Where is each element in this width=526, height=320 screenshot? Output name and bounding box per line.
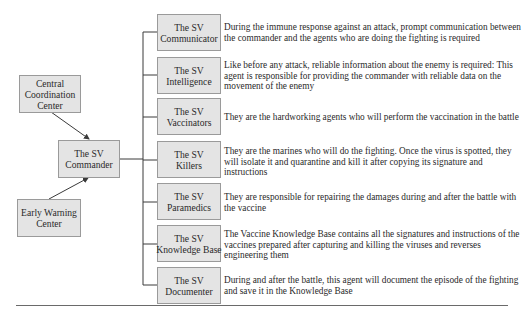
agent-paramedics-description: They are responsible for repairing the d… bbox=[224, 192, 524, 213]
node-label: Commander bbox=[65, 159, 112, 170]
node-label: The SV bbox=[174, 149, 204, 160]
agent-communicator-node: The SV Communicator bbox=[157, 14, 221, 51]
early-warning-center-node: Early Warning Center bbox=[17, 199, 81, 237]
node-label: Central bbox=[36, 78, 64, 89]
agent-communicator-description: During the immune response against an at… bbox=[224, 22, 524, 43]
node-label: Center bbox=[36, 218, 62, 229]
node-label: The SV bbox=[174, 22, 204, 33]
node-label: The SV bbox=[174, 233, 204, 244]
agent-knowledge-base-node: The SV Knowledge Base bbox=[157, 225, 221, 262]
agent-killers-node: The SV Killers bbox=[157, 141, 221, 178]
node-label: The SV bbox=[174, 275, 204, 286]
agent-paramedics-node: The SV Paramedics bbox=[157, 183, 221, 220]
commander-node: The SV Commander bbox=[58, 140, 120, 178]
agent-vaccinators-description: They are the hardworking agents who will… bbox=[224, 112, 524, 123]
node-label: The SV bbox=[174, 65, 204, 76]
agent-killers-description: They are the marines who will do the fig… bbox=[224, 146, 524, 178]
node-label: Center bbox=[37, 100, 63, 111]
node-label: Communicator bbox=[160, 33, 218, 44]
bottom-divider bbox=[16, 305, 508, 306]
agent-knowledge-base-description: The Vaccine Knowledge Base contains all … bbox=[224, 229, 524, 261]
node-label: Killers bbox=[176, 160, 202, 171]
node-label: Coordination bbox=[25, 89, 76, 100]
node-label: Documenter bbox=[165, 286, 212, 297]
node-label: Paramedics bbox=[167, 202, 211, 213]
node-label: The SV bbox=[174, 191, 204, 202]
central-coordination-center-node: Central Coordination Center bbox=[19, 75, 81, 113]
agent-vaccinators-node: The SV Vaccinators bbox=[157, 98, 221, 135]
agent-intelligence-description: Like before any attack, reliable informa… bbox=[224, 60, 524, 92]
node-label: Intelligence bbox=[166, 76, 211, 87]
node-label: Knowledge Base bbox=[156, 244, 221, 255]
node-label: The SV bbox=[174, 106, 204, 117]
node-label: Early Warning bbox=[21, 207, 77, 218]
node-label: The SV bbox=[74, 148, 104, 159]
agent-documenter-description: During and after the battle, this agent … bbox=[224, 275, 524, 296]
agent-intelligence-node: The SV Intelligence bbox=[157, 57, 221, 94]
node-label: Vaccinators bbox=[167, 117, 212, 128]
agent-documenter-node: The SV Documenter bbox=[157, 267, 221, 304]
